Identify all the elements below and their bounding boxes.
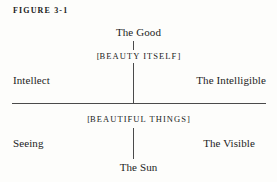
connector-line-upper — [133, 63, 134, 104]
horizontal-divider-line — [12, 103, 266, 104]
node-text-beauty-itself: BEAUTY ITSELF — [100, 51, 178, 61]
node-label-beauty-itself: [BEAUTY ITSELF] — [0, 51, 277, 61]
connector-tick-upper — [133, 41, 134, 50]
node-label-beautiful-things: [BEAUTIFUL THINGS] — [0, 114, 277, 124]
side-label-the-visible: The Visible — [203, 137, 255, 149]
node-label-the-sun: The Sun — [0, 161, 277, 173]
node-label-the-good: The Good — [0, 26, 277, 38]
side-label-the-intelligible: The Intelligible — [196, 74, 266, 86]
bracket-close-beautiful-things: ] — [187, 114, 190, 124]
figure-number-label: FIGURE 3-1 — [13, 6, 68, 15]
figure-container: FIGURE 3-1 The Good [BEAUTY ITSELF] Inte… — [0, 0, 277, 182]
bracket-close-beauty-itself: ] — [177, 51, 180, 61]
side-label-seeing: Seeing — [13, 137, 44, 149]
connector-line-lower — [133, 128, 134, 159]
node-text-beautiful-things: BEAUTIFUL THINGS — [90, 114, 187, 124]
side-label-intellect: Intellect — [13, 74, 50, 86]
